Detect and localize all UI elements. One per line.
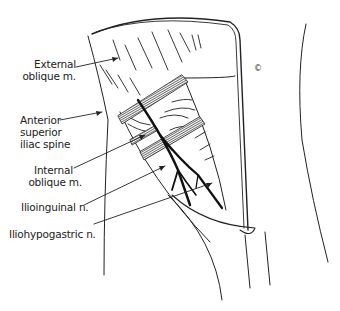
incision-wedge bbox=[120, 112, 210, 242]
label-line: External bbox=[18, 58, 76, 70]
label-asis: Anterior superior iliac spine bbox=[20, 114, 70, 150]
label-external-oblique: External oblique m. bbox=[18, 58, 76, 82]
label-line: Iliohypogastric n. bbox=[9, 228, 96, 240]
copyright-mark: © bbox=[254, 64, 262, 73]
label-line: oblique m. bbox=[18, 70, 76, 82]
label-line: Ilioinguinal n. bbox=[21, 201, 89, 213]
label-line: oblique m. bbox=[20, 176, 82, 188]
anatomy-figure: External oblique m. Anterior superior il… bbox=[0, 0, 340, 311]
leader-iliohypogastric bbox=[94, 183, 212, 224]
label-line: Internal bbox=[20, 164, 82, 176]
fascia-band-upper bbox=[118, 75, 188, 124]
label-internal-oblique: Internal oblique m. bbox=[20, 164, 82, 188]
label-iliohypogastric: Iliohypogastric n. bbox=[9, 228, 96, 240]
label-ilioinguinal: Ilioinguinal n. bbox=[21, 201, 89, 213]
leader-internal-oblique bbox=[74, 135, 145, 168]
drawing bbox=[0, 0, 340, 311]
leader-external-oblique bbox=[76, 58, 118, 67]
flap-top-edge bbox=[92, 18, 248, 230]
leader-ilioinguinal bbox=[84, 166, 165, 205]
fascia-band-middle bbox=[140, 117, 205, 160]
label-line: Anterior bbox=[20, 114, 70, 126]
label-line: superior bbox=[20, 126, 70, 138]
thigh-right-outline bbox=[300, 24, 328, 262]
label-line: iliac spine bbox=[20, 138, 70, 150]
